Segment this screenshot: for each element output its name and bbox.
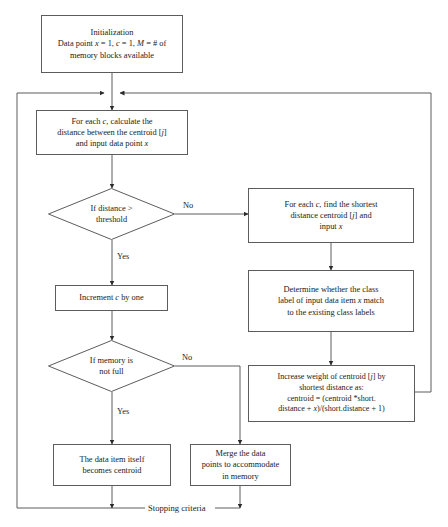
flowchart-canvas: InitializationData point x = 1, c = 1, M… <box>0 0 448 527</box>
node-calculate-distance: For each c, calculate thedistance betwee… <box>36 110 188 155</box>
node-merge-data-points-label: Merge the datapoints to accommodatein me… <box>198 448 284 482</box>
node-distance-threshold-decision: If distance >threshold <box>48 188 175 240</box>
node-increase-weight: Increase weight of centroid [j] byshorte… <box>248 365 415 422</box>
node-find-shortest-label: For each c, find the shortestdistance ce… <box>280 199 381 233</box>
edge-label-memory-no: No <box>182 353 192 363</box>
node-find-shortest: For each c, find the shortestdistance ce… <box>248 188 414 243</box>
node-merge-data-points: Merge the datapoints to accommodatein me… <box>190 444 291 486</box>
node-increase-weight-label: Increase weight of centroid [j] byshorte… <box>273 372 389 414</box>
node-data-item-becomes-centroid-label: The data item itselfbecomes centroid <box>76 454 149 476</box>
node-determine-class-label: Determine whether the classlabel of inpu… <box>248 270 414 332</box>
node-memory-not-full-decision: If memory isnot full <box>48 340 175 392</box>
edge-label-distance-no: No <box>183 201 193 211</box>
edge-label-memory-yes: Yes <box>117 407 129 417</box>
edge-label-stopping-criteria: Stopping criteria <box>145 503 209 513</box>
edge-label-distance-yes: Yes <box>117 252 129 262</box>
node-increment-c: Increment c by one <box>55 285 168 311</box>
node-distance-threshold-label: If distance >threshold <box>48 188 175 240</box>
edge-memory-no-to-merge <box>175 366 240 444</box>
node-calculate-distance-label: For each c, calculate thedistance betwee… <box>53 116 170 150</box>
node-data-item-becomes-centroid: The data item itselfbecomes centroid <box>53 444 171 486</box>
node-increment-c-label: Increment c by one <box>75 292 147 303</box>
node-initialization: InitializationData point x = 1, c = 1, M… <box>41 15 183 73</box>
node-determine-class-label-label: Determine whether the classlabel of inpu… <box>274 284 388 318</box>
node-memory-not-full-label: If memory isnot full <box>48 340 175 392</box>
node-initialization-label: InitializationData point x = 1, c = 1, M… <box>54 27 170 61</box>
